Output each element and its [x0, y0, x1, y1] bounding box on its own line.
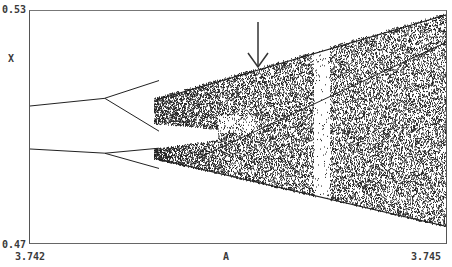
y-axis-title: X: [8, 53, 14, 64]
x-axis-max-label: 3.745: [411, 251, 441, 262]
down-arrow-icon: [246, 22, 270, 70]
y-axis-min-label: 0.47: [2, 239, 26, 250]
x-axis-min-label: 3.742: [15, 251, 45, 262]
y-axis-max-label: 0.53: [2, 4, 26, 15]
x-axis-title: A: [223, 251, 229, 262]
plot-frame: [29, 10, 447, 244]
